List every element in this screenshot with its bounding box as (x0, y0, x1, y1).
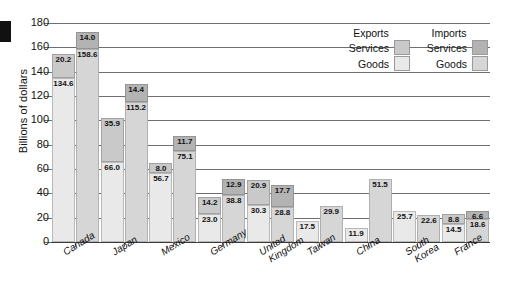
value-label-goods: 115.2 (125, 102, 148, 112)
value-label-goods: 23.0 (198, 214, 221, 224)
y-tick-label: 0 (3, 235, 49, 247)
bar-group-canada[interactable]: 134.620.2158.614.0 (52, 23, 99, 242)
legend-label-exports-services: Services (349, 42, 389, 54)
value-label-goods: 56.7 (149, 173, 172, 183)
y-axis-title: Billions of dollars (17, 41, 29, 181)
legend-swatch-exports-services (394, 40, 410, 55)
bar-group-germany[interactable]: 23.014.238.812.9 (198, 23, 245, 242)
bar-group-mexico[interactable]: 56.78.075.111.7 (149, 23, 196, 242)
legend-label-exports-goods: Goods (358, 58, 389, 70)
legend-item-imports-services: Services (410, 40, 488, 55)
value-label-services: 20.2 (52, 54, 75, 64)
value-label-goods: 38.8 (222, 195, 245, 205)
y-tick-label: 160 (3, 40, 49, 52)
value-label-services: 20.9 (247, 180, 270, 190)
value-label-goods: 51.5 (369, 179, 392, 189)
legend-label-imports-goods: Goods (436, 58, 467, 70)
chart-container: Billions of dollars 134.620.2158.614.066… (0, 0, 507, 308)
legend-swatch-exports-goods (394, 56, 410, 71)
segment-goods (125, 102, 148, 242)
value-label-goods: 29.9 (320, 206, 343, 216)
value-label-services: 12.9 (222, 179, 245, 189)
value-label-goods: 158.6 (76, 49, 99, 59)
legend-swatch-imports-services (472, 40, 488, 55)
value-label-services: 6.6 (466, 211, 489, 221)
chart-legend: Exports Imports Services Services Goods … (332, 27, 488, 71)
legend-header-exports: Exports (332, 27, 410, 39)
value-label-services: 17.7 (271, 185, 294, 195)
legend-label-imports-services: Services (427, 42, 467, 54)
segment-goods (76, 49, 99, 242)
value-label-services: 11.7 (173, 136, 196, 146)
bar-group-united-kingdom[interactable]: 30.320.928.817.7 (247, 23, 294, 242)
value-label-goods: 25.7 (393, 211, 416, 221)
value-label-goods: 66.0 (101, 162, 124, 172)
value-label-goods: 22.6 (417, 215, 440, 225)
value-label-goods: 14.5 (442, 224, 465, 234)
legend-header-imports: Imports (410, 27, 488, 39)
value-label-goods: 11.9 (345, 228, 368, 238)
legend-swatch-imports-goods (472, 56, 488, 71)
value-label-services: 14.4 (125, 84, 148, 94)
legend-item-exports-goods: Goods (332, 56, 410, 71)
value-label-services: 14.2 (198, 197, 221, 207)
legend-item-exports-services: Services (332, 40, 410, 55)
value-label-goods: 28.8 (271, 207, 294, 217)
value-label-services: 8.0 (149, 163, 172, 173)
bar-group-japan[interactable]: 66.035.9115.214.4 (101, 23, 148, 242)
value-label-goods: 134.6 (52, 78, 75, 88)
value-label-services: 8.8 (442, 214, 465, 224)
y-tick-label: 140 (3, 65, 49, 77)
segment-goods (52, 78, 75, 242)
y-tick-label: 120 (3, 89, 49, 101)
y-tick-label: 100 (3, 113, 49, 125)
value-label-goods: 75.1 (173, 151, 196, 161)
y-tick-label: 20 (3, 211, 49, 223)
value-label-goods: 17.5 (296, 221, 319, 231)
segment-goods (101, 162, 124, 242)
y-tick-label: 180 (3, 16, 49, 28)
legend-item-imports-goods: Goods (410, 56, 488, 71)
value-label-services: 35.9 (101, 118, 124, 128)
segment-goods (149, 173, 172, 242)
y-tick-label: 40 (3, 186, 49, 198)
segment-goods (173, 151, 196, 242)
value-label-goods: 30.3 (247, 205, 270, 215)
value-label-services: 14.0 (76, 32, 99, 42)
y-tick-label: 60 (3, 162, 49, 174)
y-tick-label: 80 (3, 138, 49, 150)
